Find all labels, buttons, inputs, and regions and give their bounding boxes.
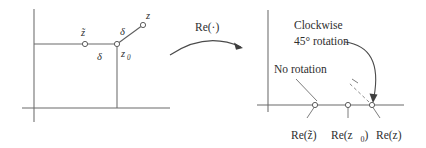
- label-re-z0-base: Re(z: [331, 129, 353, 142]
- label-re-z: Re(z): [376, 129, 402, 142]
- annotation-clockwise-line2: 45° rotation: [294, 35, 349, 47]
- complex-plane-figure: z̃ z 0 z δ δ Re(·): [0, 0, 426, 148]
- label-re-z0-paren: ): [365, 129, 369, 142]
- annotation-clockwise-line1: Clockwise: [294, 19, 343, 31]
- annotation-no-rotation: No rotation: [274, 63, 327, 75]
- right-panel-labels: Clockwise 45° rotation No rotation Re(z̃…: [0, 0, 426, 148]
- label-re-z-tilde: Re(z̃): [291, 129, 317, 142]
